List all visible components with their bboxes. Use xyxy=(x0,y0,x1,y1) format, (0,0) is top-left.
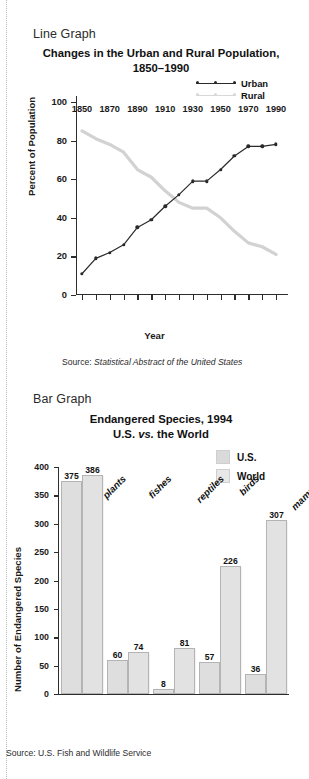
bar-fishes-us: 60 xyxy=(107,660,128,694)
line-graph-source: Source: Statistical Abstract of the Unit… xyxy=(62,357,242,367)
line-graph-source-title: Statistical Abstract of the United State… xyxy=(94,357,242,367)
line-series-urban xyxy=(82,144,276,273)
bar-value-label: 36 xyxy=(251,664,261,674)
legend-item-us: U.S. xyxy=(216,450,265,464)
bar-graph-title-pre: U.S. xyxy=(113,428,138,440)
line-x-tick xyxy=(179,295,180,300)
line-x-tick xyxy=(124,295,125,300)
bar-mammals-world: 307 xyxy=(266,520,287,694)
line-x-tick xyxy=(96,295,97,300)
bar-y-tick: 150 xyxy=(54,609,59,610)
line-y-tick-label: 100 xyxy=(51,97,67,107)
bar-birds-us: 57 xyxy=(199,662,220,694)
bar-y-tick: 300 xyxy=(54,524,59,525)
bar-graph-source: Source: U.S. Fish and Wildlife Service xyxy=(6,748,151,758)
bar-category-label: plants xyxy=(100,473,128,501)
bar-y-tick-label: 50 xyxy=(39,661,49,671)
bar-reptiles-us: 8 xyxy=(153,689,174,694)
line-x-tick xyxy=(82,295,83,300)
line-graph-y-axis-title: Percent of Population xyxy=(26,97,37,196)
urban-line-swatch xyxy=(196,78,236,89)
bar-y-tick: 250 xyxy=(54,552,59,553)
line-x-tick xyxy=(110,295,111,300)
line-graph-kicker: Line Graph xyxy=(33,27,96,41)
bar-y-tick-label: 0 xyxy=(44,689,49,699)
line-x-tick xyxy=(221,295,222,300)
bar-category-label: birds xyxy=(237,473,261,497)
line-graph-title-line1: Changes in the Urban and Rural Populatio… xyxy=(22,46,300,61)
bar-value-label: 226 xyxy=(223,556,237,566)
bar-graph-plot-area: 050100150200250300350400 375386607488157… xyxy=(58,467,289,695)
bar-value-label: 60 xyxy=(113,650,123,660)
bar-fishes-world: 74 xyxy=(128,652,149,694)
bar-graph-y-axis-title: Number of Endangered Species xyxy=(12,547,23,692)
us-color-swatch xyxy=(216,450,230,464)
bar-value-label: 57 xyxy=(205,652,215,662)
line-graph-source-prefix: Source: xyxy=(62,357,94,367)
bar-value-label: 74 xyxy=(134,642,144,652)
line-graph-figure: Line Graph Changes in the Urban and Rura… xyxy=(0,0,309,395)
line-y-tick-label: 40 xyxy=(57,213,67,223)
line-graph-x-axis-title: Year xyxy=(0,330,309,341)
line-graph-series-svg xyxy=(76,96,288,295)
line-x-tick xyxy=(234,295,235,300)
bar-y-tick: 0 xyxy=(54,694,59,695)
bar-graph-title: Endangered Species, 1994 U.S. vs. the Wo… xyxy=(22,412,300,441)
bar-value-label: 375 xyxy=(64,471,78,481)
bar-graph-title-line2: U.S. vs. the World xyxy=(22,427,300,442)
bar-value-label: 81 xyxy=(180,638,190,648)
bar-graph-title-line1: Endangered Species, 1994 xyxy=(22,412,300,427)
bar-y-tick: 100 xyxy=(54,637,59,638)
bar-y-tick-label: 400 xyxy=(34,462,49,472)
line-graph-title: Changes in the Urban and Rural Populatio… xyxy=(22,46,300,75)
line-y-tick-label: 0 xyxy=(62,290,67,300)
bar-category-label: mammals xyxy=(289,473,309,512)
line-graph-plot-area: 020406080100 185018701890191019301950197… xyxy=(76,96,288,295)
line-x-tick xyxy=(137,295,138,300)
bar-y-tick: 200 xyxy=(54,581,59,582)
line-x-tick xyxy=(248,295,249,300)
bar-y-tick-label: 100 xyxy=(34,632,49,642)
bar-value-label: 307 xyxy=(269,510,283,520)
line-y-tick: 0 xyxy=(71,295,76,296)
bar-mammals-us: 36 xyxy=(245,674,266,694)
line-x-tick xyxy=(207,295,208,300)
legend-item-urban: Urban xyxy=(196,77,268,89)
line-x-tick xyxy=(165,295,166,300)
bar-y-tick-label: 200 xyxy=(34,576,49,586)
line-graph-title-line2: 1850–1990 xyxy=(22,61,300,76)
bar-graph-title-post: the World xyxy=(154,428,209,440)
line-x-tick xyxy=(151,295,152,300)
line-y-tick-label: 20 xyxy=(57,251,67,261)
bar-reptiles-world: 81 xyxy=(174,648,195,694)
bar-birds-world: 226 xyxy=(220,566,241,694)
bar-y-tick-label: 350 xyxy=(34,490,49,500)
bar-value-label: 8 xyxy=(161,679,166,689)
bar-value-label: 386 xyxy=(85,465,99,475)
bar-y-tick-label: 250 xyxy=(34,547,49,557)
legend-label-urban: Urban xyxy=(241,78,268,89)
line-y-tick-label: 80 xyxy=(57,136,67,146)
line-x-tick xyxy=(262,295,263,300)
bar-y-tick-label: 150 xyxy=(34,604,49,614)
bar-y-tick: 50 xyxy=(54,666,59,667)
line-x-tick xyxy=(276,295,277,300)
bar-plants-world: 386 xyxy=(82,475,103,694)
line-x-tick xyxy=(193,295,194,300)
legend-label-us: U.S. xyxy=(237,452,256,463)
bar-graph-figure: Bar Graph Endangered Species, 1994 U.S. … xyxy=(0,392,309,779)
bar-plants-us: 375 xyxy=(61,481,82,694)
bar-y-tick-label: 300 xyxy=(34,519,49,529)
line-y-tick-label: 60 xyxy=(57,174,67,184)
bar-y-tick: 400 xyxy=(54,467,59,468)
bar-category-label: reptiles xyxy=(194,473,226,505)
bar-y-tick: 350 xyxy=(54,495,59,496)
bar-category-label: fishes xyxy=(146,473,173,500)
bar-graph-title-vs: vs. xyxy=(138,428,154,440)
bar-graph-kicker: Bar Graph xyxy=(33,392,92,406)
